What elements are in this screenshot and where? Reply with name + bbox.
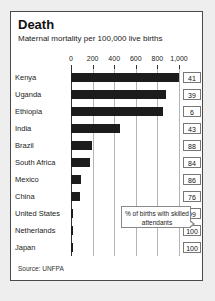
attendants-value-box: 100	[183, 242, 201, 253]
country-label: Netherlands	[15, 222, 55, 239]
mortality-bar	[71, 226, 73, 235]
chart-subtitle: Maternal mortality per 100,000 live birt…	[18, 34, 163, 43]
chart-row: Uganda39	[11, 86, 202, 103]
source-note: Source: UNFPA	[18, 265, 64, 272]
attendants-callout-label: % of births with skilled attendants	[122, 209, 192, 227]
chart-row: South Africa84	[11, 154, 202, 171]
chart-row: Kenya41	[11, 69, 202, 86]
x-axis-tick-label: 600	[130, 55, 142, 62]
mortality-bar	[71, 141, 92, 150]
attendants-value-box: 84	[183, 157, 201, 168]
mortality-bar	[71, 243, 73, 252]
x-axis-tick-label: 800	[152, 55, 164, 62]
mortality-bar	[71, 158, 90, 167]
chart-row: Japan100	[11, 239, 202, 256]
country-label: India	[15, 120, 31, 137]
chart-card: Death Maternal mortality per 100,000 liv…	[10, 11, 203, 281]
chart-plot-area: 02004006008001,000Kenya41Uganda39Ethiopi…	[11, 55, 202, 269]
attendants-value-box: 88	[183, 140, 201, 151]
chart-row: China76	[11, 188, 202, 205]
mortality-bar	[71, 90, 166, 99]
country-label: Mexico	[15, 171, 39, 188]
chart-row: Ethiopia6	[11, 103, 202, 120]
country-label: China	[15, 188, 35, 205]
attendants-value-box: 76	[183, 191, 201, 202]
attendants-value-box: 41	[183, 72, 201, 83]
country-label: Kenya	[15, 69, 36, 86]
country-label: South Africa	[15, 154, 55, 171]
mortality-bar	[71, 107, 163, 116]
x-axis-tick-label: 1,000	[170, 55, 188, 62]
callout-tail-fill	[189, 221, 193, 227]
attendants-value-box: 86	[183, 174, 201, 185]
chart-row: India43	[11, 120, 202, 137]
chart-row: Brazil88	[11, 137, 202, 154]
mortality-bar	[71, 192, 80, 201]
x-axis-tick-label: 0	[69, 55, 73, 62]
mortality-bar	[71, 209, 73, 218]
country-label: Brazil	[15, 137, 34, 154]
x-axis-tick-label: 200	[87, 55, 99, 62]
attendants-value-box: 39	[183, 89, 201, 100]
page-title: Death	[18, 17, 54, 32]
attendants-value-box: 6	[183, 106, 201, 117]
country-label: United States	[15, 205, 60, 222]
chart-row: Mexico86	[11, 171, 202, 188]
mortality-bar	[71, 175, 81, 184]
x-axis-tick-label: 400	[108, 55, 120, 62]
attendants-callout: % of births with skilled attendants	[121, 206, 191, 228]
mortality-bar	[71, 73, 179, 82]
country-label: Uganda	[15, 86, 41, 103]
mortality-bar	[71, 124, 120, 133]
country-label: Ethiopia	[15, 103, 42, 120]
attendants-value-box: 43	[183, 123, 201, 134]
country-label: Japan	[15, 239, 35, 256]
